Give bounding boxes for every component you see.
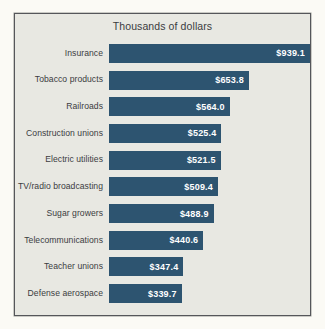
bar-row: Teacher unions$347.4 [15,256,310,277]
chart-title: Thousands of dollars [15,20,310,32]
bar-row: Telecommunications$440.6 [15,230,310,251]
bar-track: $339.7 [109,283,310,304]
bar-row: Construction unions$525.4 [15,123,310,144]
bar-category-label: Sugar growers [15,209,109,218]
bar-track: $509.4 [109,176,310,197]
bar-track: $939.1 [109,43,310,64]
bar-category-label: Electric utilities [15,155,109,164]
bar: $564.0 [109,97,230,116]
bar: $488.9 [109,204,214,223]
bar-row: Insurance$939.1 [15,43,310,64]
bar: $440.6 [109,231,203,250]
bar-track: $440.6 [109,230,310,251]
bar-category-label: Defense aerospace [15,289,109,298]
bar-value-label: $525.4 [188,128,217,138]
bar-row: Electric utilities$521.5 [15,150,310,171]
bar-category-label: Insurance [15,49,109,58]
bar-row: Defense aerospace$339.7 [15,283,310,304]
bar-chart-plot-area: Insurance$939.1Tobacco products$653.8Rai… [15,40,310,307]
bar-row: Railroads$564.0 [15,96,310,117]
bar-category-label: Railroads [15,102,109,111]
bar-row: Sugar growers$488.9 [15,203,310,224]
bar: $347.4 [109,257,183,276]
bar: $939.1 [109,44,310,63]
bar-value-label: $521.5 [187,155,216,165]
bar-value-label: $347.4 [150,262,179,272]
bar-value-label: $339.7 [148,289,177,299]
bar-value-label: $939.1 [276,48,305,58]
bar-value-label: $564.0 [196,102,225,112]
bar-track: $521.5 [109,150,310,171]
bar: $339.7 [109,284,182,303]
chart-frame: Thousands of dollars Insurance$939.1Toba… [14,13,311,316]
bar-category-label: Telecommunications [15,236,109,245]
bar: $521.5 [109,151,221,170]
bar-track: $564.0 [109,96,310,117]
bar-category-label: TV/radio broadcasting [15,182,109,191]
bar-value-label: $488.9 [180,209,209,219]
bar: $509.4 [109,177,218,196]
bar-value-label: $440.6 [170,235,199,245]
bar: $653.8 [109,71,249,90]
bar-track: $653.8 [109,70,310,91]
bar-value-label: $653.8 [215,75,244,85]
bar-category-label: Teacher unions [15,262,109,271]
bar-row: Tobacco products$653.8 [15,70,310,91]
bar-track: $488.9 [109,203,310,224]
bar-category-label: Tobacco products [15,75,109,84]
bar-row: TV/radio broadcasting$509.4 [15,176,310,197]
bar-track: $525.4 [109,123,310,144]
bar-category-label: Construction unions [15,129,109,138]
bar: $525.4 [109,124,221,143]
bar-track: $347.4 [109,256,310,277]
bar-value-label: $509.4 [184,182,213,192]
